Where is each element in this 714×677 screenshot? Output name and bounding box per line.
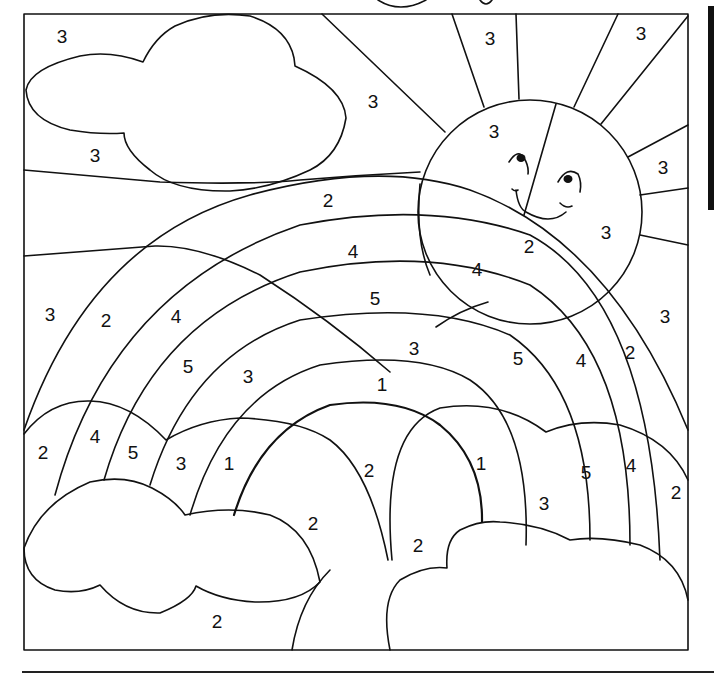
cloud-bottom-center-edge	[292, 570, 330, 650]
region-number-inner-right-1[interactable]: 1	[476, 454, 487, 473]
cloud-bottom-left	[24, 479, 320, 613]
region-number-band-4-top[interactable]: 4	[348, 242, 359, 261]
cloud-bottom-right	[387, 522, 688, 650]
region-number-band-3-top[interactable]: 3	[409, 339, 420, 358]
region-number-inner-right-2[interactable]: 2	[413, 536, 424, 555]
region-number-band-5-top[interactable]: 5	[370, 289, 381, 308]
frame	[24, 14, 688, 650]
sky-line-lower	[24, 246, 390, 372]
edge-bar	[708, 6, 714, 210]
region-number-band-2-left[interactable]: 2	[101, 311, 112, 330]
region-number-cloud-left-5[interactable]: 5	[128, 443, 139, 462]
region-number-cloud-left-1[interactable]: 1	[224, 454, 235, 473]
region-number-band-4-right-lower[interactable]: 4	[576, 351, 587, 370]
region-number-ground-2[interactable]: 2	[212, 612, 223, 631]
cloud-top-left	[26, 14, 346, 191]
cloud-arch-right	[390, 406, 688, 560]
region-number-sky-top-left[interactable]: 3	[57, 27, 68, 46]
coloring-page: 33333333322445324354253124531215423222	[0, 0, 714, 677]
region-number-cloud-right-4[interactable]: 4	[626, 456, 637, 475]
footer-rule	[22, 671, 714, 673]
region-number-band-3-left[interactable]: 3	[243, 367, 254, 386]
region-number-band-1-top[interactable]: 1	[377, 375, 388, 394]
sun-divider	[524, 104, 556, 215]
region-number-sky-left[interactable]: 3	[45, 305, 56, 324]
region-number-inner-left-2b[interactable]: 2	[308, 514, 319, 533]
region-number-band-5-right[interactable]: 5	[513, 349, 524, 368]
region-number-band-4-right[interactable]: 4	[472, 260, 483, 279]
region-number-ray-top-1[interactable]: 3	[485, 29, 496, 48]
cloud-arch-left	[24, 401, 388, 560]
rainbow	[24, 176, 688, 560]
sun-rays	[322, 14, 688, 245]
region-number-band-4-left[interactable]: 4	[171, 307, 182, 326]
top-doodle	[378, 0, 492, 7]
region-number-ray-top-2[interactable]: 3	[636, 24, 647, 43]
region-number-ray-right-1[interactable]: 3	[658, 158, 669, 177]
region-number-sun-right[interactable]: 3	[601, 223, 612, 242]
region-number-inner-left-2[interactable]: 2	[364, 461, 375, 480]
region-number-cloud-right-5[interactable]: 5	[581, 463, 592, 482]
region-number-cloud-left-2[interactable]: 2	[38, 443, 49, 462]
region-number-cloud-right-3[interactable]: 3	[539, 494, 550, 513]
region-number-sky-under-cloud[interactable]: 3	[90, 146, 101, 165]
region-number-band-outer-2-sun[interactable]: 2	[524, 237, 535, 256]
region-number-cloud-left-4[interactable]: 4	[90, 427, 101, 446]
region-number-band-outer-2-top[interactable]: 2	[323, 191, 334, 210]
region-number-cloud-left-3[interactable]: 3	[176, 454, 187, 473]
region-number-band-2-right[interactable]: 2	[625, 343, 636, 362]
region-number-ray-right-2[interactable]: 3	[660, 307, 671, 326]
line-art	[0, 0, 714, 677]
region-number-sun-left[interactable]: 3	[489, 122, 500, 141]
sun-face	[509, 154, 581, 219]
region-number-sky-center[interactable]: 3	[368, 92, 379, 111]
region-number-cloud-right-2[interactable]: 2	[671, 483, 682, 502]
region-number-band-5-left[interactable]: 5	[183, 357, 194, 376]
